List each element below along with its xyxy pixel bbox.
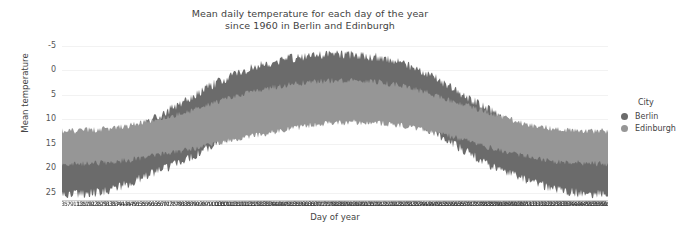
y-axis-tick: 0 xyxy=(22,65,56,74)
y-axis-tick: 25 xyxy=(22,188,56,197)
y-axis-tick: 15 xyxy=(22,139,56,148)
chart-title-line-2: since 1960 in Berlin and Edinburgh xyxy=(0,20,620,32)
y-axis-tick: 20 xyxy=(22,163,56,172)
legend-marker-icon xyxy=(621,113,628,120)
chart-figure: Mean daily temperature for each day of t… xyxy=(0,0,699,233)
y-axis-tick: -5 xyxy=(22,41,56,50)
x-axis-tick-labels xyxy=(62,201,608,209)
legend-marker-icon xyxy=(621,125,628,132)
legend-item-label: Berlin xyxy=(635,112,658,121)
legend-title: City xyxy=(638,98,676,107)
legend-item-berlin[interactable]: Berlin xyxy=(620,110,676,122)
x-axis-label: Day of year xyxy=(62,212,608,222)
plot-area xyxy=(62,41,608,200)
chart-title: Mean daily temperature for each day of t… xyxy=(0,8,620,31)
legend: City BerlinEdinburgh xyxy=(620,98,676,134)
y-axis-tick: 5 xyxy=(22,90,56,99)
y-axis-tick: 10 xyxy=(22,114,56,123)
temperature-bands xyxy=(62,41,608,200)
legend-item-label: Edinburgh xyxy=(635,124,676,133)
chart-title-line-1: Mean daily temperature for each day of t… xyxy=(0,8,620,20)
legend-items: BerlinEdinburgh xyxy=(620,110,676,134)
legend-item-edinburgh[interactable]: Edinburgh xyxy=(620,122,676,134)
